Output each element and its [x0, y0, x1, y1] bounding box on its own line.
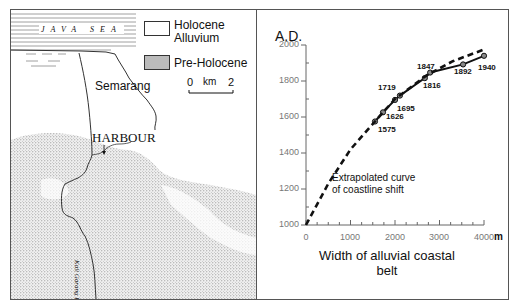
y-tick-1000: 1000 [259, 219, 299, 229]
chart-panel: A.D. 2000 1800 1600 1400 1200 1000 0 100… [257, 10, 508, 299]
point-label-1847: 1847 [417, 62, 435, 71]
y-tick-1400: 1400 [259, 147, 299, 157]
scale-bar [189, 90, 233, 93]
x-axis-title: Width of alluvial coastal belt [287, 248, 487, 278]
pre-holocene-region [11, 133, 256, 299]
point-label-1816: 1816 [423, 81, 441, 90]
sea-label: JAVA SEA [39, 25, 124, 34]
x-tick-0: 0 [286, 232, 326, 242]
scale-start-label: 0 [187, 76, 193, 88]
point-label-1575: 1575 [378, 125, 396, 134]
scale-unit-label: km [203, 76, 216, 87]
point-label-1892: 1892 [454, 67, 472, 76]
point-label-1695: 1695 [397, 104, 415, 113]
legend-swatch-pre-holocene [144, 55, 170, 70]
x-tick-2000: 2000 [375, 232, 415, 242]
map-panel: JAVA SEA Semarang HARBOUR Kali Garang R.… [11, 10, 256, 299]
point-label-1626: 1626 [386, 112, 404, 121]
legend-swatch-holocene [144, 21, 170, 36]
x-tick-3000: 3000 [419, 232, 459, 242]
annotation-extrapolated: Extrapolated curve of coastline shift [332, 172, 415, 196]
map-drawing [11, 10, 256, 299]
point-label-1719: 1719 [378, 83, 396, 92]
legend-label-holocene: Holocene Alluvium [174, 19, 225, 45]
legend-label-pre-holocene: Pre-Holocene [174, 57, 247, 70]
scale-end-label: 2 [228, 76, 234, 88]
legend-holocene-line2: Alluvium [174, 32, 225, 45]
city-label-semarang: Semarang [95, 79, 150, 93]
river-label: Kali Garang R. [73, 260, 81, 299]
y-tick-1800: 1800 [259, 75, 299, 85]
x-unit-label: m [494, 231, 503, 242]
y-tick-2000: 2000 [259, 39, 299, 49]
annotation-line1: Extrapolated curve [332, 172, 415, 184]
x-axis-title-line1: Width of alluvial coastal [287, 248, 487, 263]
x-axis-title-line2: belt [287, 263, 487, 278]
x-tick-1000: 1000 [330, 232, 370, 242]
y-tick-1200: 1200 [259, 183, 299, 193]
harbour-label: HARBOUR [92, 130, 156, 146]
y-tick-1600: 1600 [259, 111, 299, 121]
annotation-line2: of coastline shift [332, 184, 415, 196]
data-point-1940 [481, 53, 486, 58]
point-label-1940: 1940 [478, 63, 496, 72]
